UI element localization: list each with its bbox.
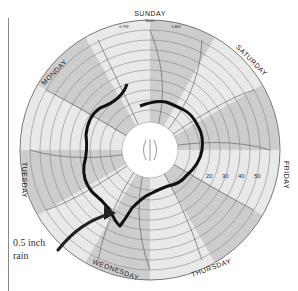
label-noon: Noon <box>145 18 155 23</box>
label-friday: FRIDAY <box>283 161 290 189</box>
scale-20: 20 <box>206 173 213 179</box>
annotation-line1: 0.5 inch <box>13 236 45 249</box>
scale-30: 30 <box>222 173 229 179</box>
scale-50: 50 <box>254 173 261 179</box>
label-6pm: 6 PM <box>119 24 128 29</box>
annotation-line2: rain <box>13 249 45 262</box>
rain-annotation: 0.5 inch rain <box>13 236 45 262</box>
scale-40: 40 <box>238 173 245 179</box>
label-sunday: SUNDAY <box>134 10 166 17</box>
label-6am: 6 AM <box>171 24 180 29</box>
label-tuesday: TUESDAY <box>21 162 28 198</box>
